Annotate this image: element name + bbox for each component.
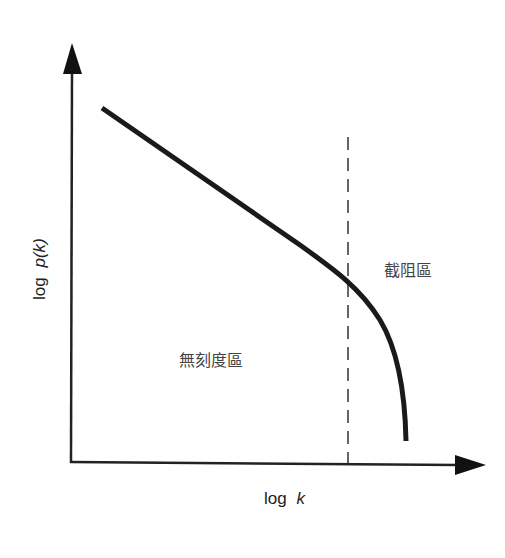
region-label-scale-free: 無刻度區 [179, 351, 243, 370]
distribution-curve [102, 108, 406, 441]
region-label-cutoff: 截阻區 [384, 261, 432, 280]
y-axis-label-log: log [30, 277, 49, 300]
x-axis-label-log: log [264, 489, 287, 508]
x-axis [70, 462, 458, 465]
x-axis-arrow-icon [455, 455, 486, 475]
y-axis-label-var: p(k) [30, 238, 49, 268]
x-axis-label-var: k [296, 489, 306, 508]
y-axis [71, 72, 72, 463]
y-axis-label: log p(k) [30, 238, 49, 300]
x-axis-label: log k [264, 489, 306, 508]
y-axis-arrow-icon [63, 43, 82, 74]
diagram-canvas: 無刻度區 截阻區 log k log p(k) [0, 0, 505, 558]
